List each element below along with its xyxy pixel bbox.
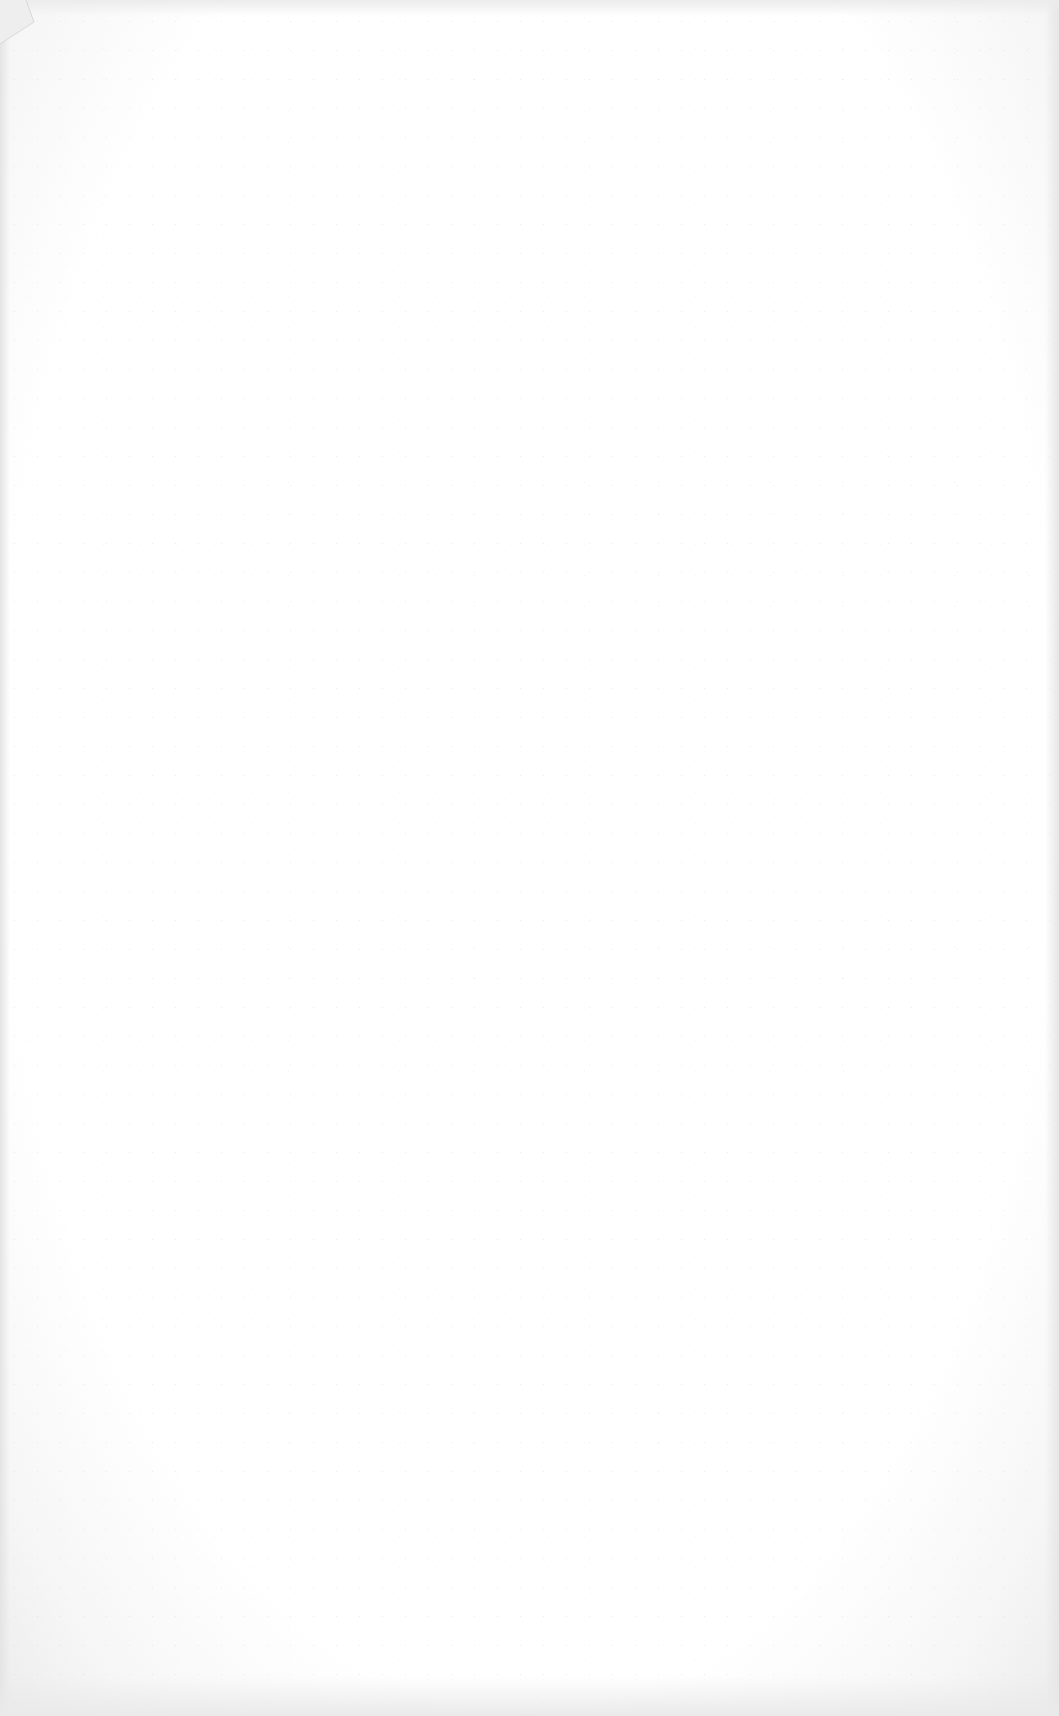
blank-scanned-page: [0, 0, 1059, 1716]
page-edge-top: [0, 0, 1059, 16]
scan-noise: [0, 0, 1059, 1716]
page-edge-right: [1045, 0, 1059, 1716]
page-edge-left: [0, 0, 10, 1716]
page-edge-bottom: [0, 1676, 1059, 1716]
folded-corner-icon: [0, 0, 36, 46]
